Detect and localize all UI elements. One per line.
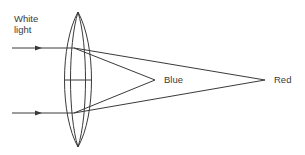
ray-bottom-to-blue: [74, 80, 155, 113]
arrowhead-bottom-icon: [35, 111, 42, 116]
diagram-canvas: [0, 0, 305, 155]
label-light: light: [14, 25, 31, 35]
chromatic-aberration-diagram: White light Blue Red: [0, 0, 305, 155]
label-white: White: [14, 14, 38, 24]
label-red-focus: Red: [274, 75, 291, 85]
ray-top-to-blue: [74, 48, 155, 80]
label-blue-focus: Blue: [164, 75, 183, 85]
arrowhead-top-icon: [35, 46, 42, 51]
